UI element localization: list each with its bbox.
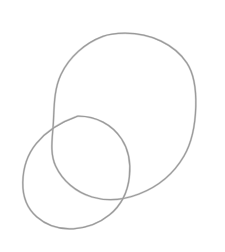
drawing-canvas: Two overlapping hand-drawn circles <box>0 0 225 252</box>
circles-drawing <box>0 0 225 252</box>
